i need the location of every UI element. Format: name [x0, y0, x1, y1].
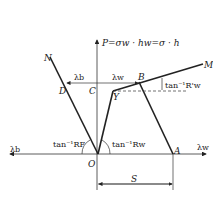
- line-OY: [98, 91, 113, 154]
- label-S: S: [131, 174, 137, 184]
- point-D: D: [58, 86, 66, 96]
- point-O: O: [88, 159, 96, 169]
- angle-label-rw-prime: tan⁻¹R'w: [165, 81, 201, 90]
- axis-right-label: λw: [197, 143, 209, 152]
- angle-label-rw: tan⁻¹Rw: [112, 140, 146, 149]
- point-A: A: [173, 146, 181, 156]
- point-M: M: [203, 60, 213, 70]
- angle-arc-rw: [102, 140, 110, 154]
- axis-vertical-label: P=σw · hw=σ · h: [101, 38, 180, 48]
- point-C: C: [89, 86, 96, 96]
- angle-label-rf: tan⁻¹RF: [53, 140, 86, 149]
- axis-left-label: λb: [10, 145, 20, 154]
- yield-line-diagram: P=σw · hw=σ · h N D C B M Y O A λb λw λb…: [0, 0, 213, 201]
- point-Y: Y: [113, 92, 120, 102]
- point-N: N: [43, 53, 53, 63]
- label-lambda-b: λb: [74, 73, 84, 82]
- label-lambda-w: λw: [112, 73, 124, 82]
- point-B: B: [137, 72, 145, 82]
